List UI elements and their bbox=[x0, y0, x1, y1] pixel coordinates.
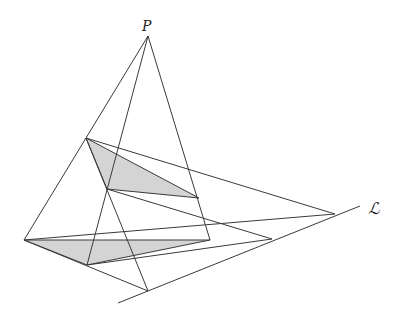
point-p-label: P bbox=[142, 18, 151, 34]
desargues-diagram: P ℒ bbox=[0, 0, 407, 320]
line-l-label: ℒ bbox=[368, 199, 380, 218]
perspector-line-c bbox=[148, 36, 210, 240]
axis-line-L bbox=[118, 206, 360, 303]
diagram-canvas bbox=[0, 0, 407, 320]
side-a2-c2-extended bbox=[24, 214, 335, 240]
